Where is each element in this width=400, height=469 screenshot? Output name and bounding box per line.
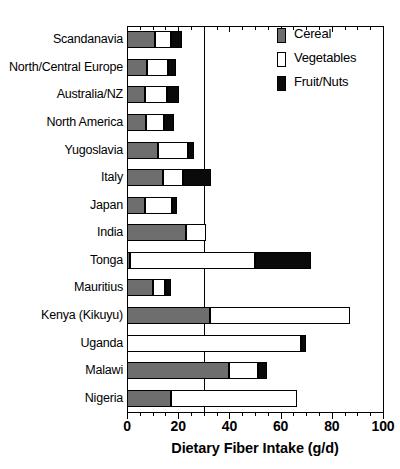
x-tick-bottom	[293, 412, 294, 416]
x-tick-top	[217, 26, 218, 30]
chart-figure: 020406080100 ScandanaviaNorth/Central Eu…	[0, 0, 400, 469]
bar-segment-cereal	[127, 86, 145, 103]
x-tick-top	[191, 26, 192, 30]
x-tick-bottom	[268, 412, 269, 416]
bar-segment-veg	[127, 335, 301, 352]
category-label: Italy	[101, 170, 123, 185]
x-tick-label: 40	[222, 418, 237, 434]
x-tick-bottom	[306, 412, 307, 416]
bar-row	[127, 31, 383, 48]
legend-swatch-cereal	[277, 28, 286, 43]
legend-label: Cereal	[294, 26, 331, 41]
category-label: Yugoslavia	[65, 143, 123, 158]
bar-segment-cereal	[127, 114, 146, 131]
x-tick-top	[165, 26, 166, 30]
x-tick-bottom	[319, 412, 320, 416]
x-tick-top	[242, 26, 243, 30]
x-axis-label: Dietary Fiber Intake (g/d)	[127, 440, 383, 456]
bar-segment-cereal	[127, 59, 147, 76]
x-tick-top	[255, 26, 256, 30]
x-tick-bottom	[204, 412, 205, 416]
bar-segment-fruit	[168, 59, 176, 76]
x-tick-top	[268, 26, 269, 30]
bar-segment-cereal	[127, 279, 153, 296]
bar-row	[127, 169, 383, 186]
bar-segment-fruit	[171, 31, 183, 48]
category-label: Nigeria	[85, 391, 123, 406]
x-tick-bottom	[255, 412, 256, 416]
bar-row	[127, 362, 383, 379]
x-tick-top	[383, 26, 384, 32]
x-tick-bottom	[165, 412, 166, 416]
bar-segment-veg	[158, 142, 189, 159]
bar-segment-fruit	[183, 169, 211, 186]
bar-segment-veg	[153, 279, 166, 296]
bar-segment-fruit	[188, 142, 193, 159]
bar-row	[127, 307, 383, 324]
bar-segment-fruit	[165, 279, 170, 296]
bar-row	[127, 224, 383, 241]
bar-segment-veg	[145, 86, 167, 103]
x-tick-bottom	[153, 412, 154, 416]
bar-segment-cereal	[127, 362, 229, 379]
x-tick-top	[140, 26, 141, 30]
x-tick-label: 80	[324, 418, 339, 434]
x-tick-top	[357, 26, 358, 30]
x-tick-bottom	[370, 412, 371, 416]
reference-line-30	[204, 26, 205, 412]
bar-row	[127, 197, 383, 214]
category-label: Scandanavia	[53, 32, 123, 47]
bar-segment-veg	[145, 197, 172, 214]
bar-row	[127, 252, 383, 269]
bar-segment-fruit	[164, 114, 174, 131]
bar-segment-cereal	[127, 197, 145, 214]
category-label: Kenya (Kikuyu)	[41, 308, 123, 323]
bar-segment-fruit	[167, 86, 180, 103]
bar-segment-fruit	[258, 362, 267, 379]
x-tick-bottom	[140, 412, 141, 416]
bar-segment-veg	[130, 252, 255, 269]
bar-segment-veg	[186, 224, 206, 241]
category-label: Tonga	[90, 253, 123, 268]
x-tick-bottom	[242, 412, 243, 416]
bar-segment-cereal	[127, 31, 155, 48]
category-label: Malawi	[85, 363, 123, 378]
bar-row	[127, 279, 383, 296]
bar-segment-veg	[146, 114, 164, 131]
x-tick-bottom	[345, 412, 346, 416]
x-tick-label: 60	[273, 418, 288, 434]
bar-segment-cereal	[127, 307, 210, 324]
x-tick-label: 20	[171, 418, 186, 434]
axis-left	[127, 26, 128, 412]
x-tick-bottom	[217, 412, 218, 416]
bar-segment-veg	[229, 362, 257, 379]
figure-caption	[0, 0, 400, 9]
axis-right	[383, 26, 384, 412]
x-tick-bottom	[191, 412, 192, 416]
x-tick-label: 100	[372, 418, 395, 434]
bar-row	[127, 142, 383, 159]
legend-label: Vegetables	[294, 50, 356, 65]
bar-segment-cereal	[127, 390, 171, 407]
legend-swatch-vegetables	[277, 52, 286, 67]
x-tick-top	[345, 26, 346, 30]
x-tick-top	[153, 26, 154, 30]
category-label: North/Central Europe	[9, 60, 123, 75]
bar-row	[127, 390, 383, 407]
category-label: Japan	[90, 198, 123, 213]
x-tick-top	[370, 26, 371, 30]
category-label: Uganda	[80, 336, 123, 351]
bar-segment-veg	[155, 31, 170, 48]
x-tick-bottom	[357, 412, 358, 416]
bar-segment-fruit	[172, 197, 177, 214]
bar-segment-fruit	[301, 335, 306, 352]
bar-segment-cereal	[127, 142, 158, 159]
bar-segment-veg	[163, 169, 183, 186]
bar-segment-fruit	[255, 252, 311, 269]
x-tick-label: 0	[123, 418, 131, 434]
legend-label: Fruit/Nuts	[294, 74, 348, 89]
category-label: North America	[46, 115, 123, 130]
bar-segment-veg	[210, 307, 350, 324]
legend-swatch-fruit_nuts	[277, 76, 286, 91]
bar-segment-cereal	[127, 224, 186, 241]
